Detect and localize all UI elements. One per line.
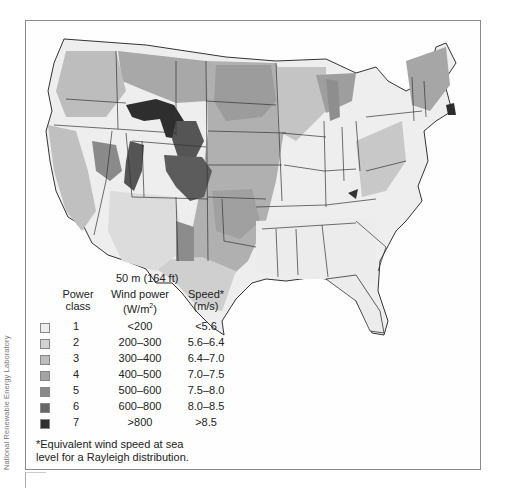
power-value: 500–600	[100, 384, 180, 396]
class-value: 5	[68, 384, 84, 396]
speed-value: <5.6	[176, 320, 236, 332]
swatch-class-3	[40, 355, 50, 365]
legend-title: 50 m (164 ft)	[116, 272, 178, 284]
header-wind-power: Wind power (W/m2)	[100, 288, 180, 315]
speed-value: 7.5–8.0	[176, 384, 236, 396]
legend-row: 3 300–400 6.4–7.0	[30, 352, 230, 368]
class-value: 6	[68, 400, 84, 412]
crop-mark	[25, 472, 46, 488]
legend-row: 2 200–300 5.6–6.4	[30, 336, 230, 352]
swatch-class-5	[40, 387, 50, 397]
power-value: 300–400	[100, 352, 180, 364]
legend-row: 1 <200 <5.6	[30, 320, 230, 336]
class-value: 2	[68, 336, 84, 348]
header-class-line1: Power	[58, 288, 98, 300]
header-speed: Speed* (m/s)	[176, 288, 236, 312]
swatch-class-6	[40, 403, 50, 413]
class-value: 7	[68, 416, 84, 428]
header-class-line2: class	[58, 300, 98, 312]
power-value: >800	[100, 416, 180, 428]
speed-value: 7.0–7.5	[176, 368, 236, 380]
header-power-close: )	[153, 303, 157, 315]
class-value: 4	[68, 368, 84, 380]
swatch-class-7	[40, 419, 50, 429]
class-value: 1	[68, 320, 84, 332]
legend-row: 5 500–600 7.5–8.0	[30, 384, 230, 400]
power-value: 200–300	[100, 336, 180, 348]
header-power-line1: Wind power	[100, 288, 180, 300]
footnote: *Equivalent wind speed at sea level for …	[36, 438, 206, 464]
speed-value: 8.0–8.5	[176, 400, 236, 412]
legend-row: 7 >800 >8.5	[30, 416, 230, 432]
speed-value: >8.5	[176, 416, 236, 428]
legend-row: 6 600–800 8.0–8.5	[30, 400, 230, 416]
legend-row: 4 400–500 7.0–7.5	[30, 368, 230, 384]
header-power-unit: (W/m	[123, 303, 149, 315]
power-value: <200	[100, 320, 180, 332]
swatch-class-1	[40, 323, 50, 333]
header-speed-line1: Speed*	[176, 288, 236, 300]
swatch-class-4	[40, 371, 50, 381]
speed-value: 6.4–7.0	[176, 352, 236, 364]
source-credit: National Renewable Energy Laboratory	[2, 335, 11, 470]
class-value: 3	[68, 352, 84, 364]
power-value: 400–500	[100, 368, 180, 380]
power-value: 600–800	[100, 400, 180, 412]
header-power-class: Power class	[58, 288, 98, 312]
swatch-class-2	[40, 339, 50, 349]
speed-value: 5.6–6.4	[176, 336, 236, 348]
header-speed-line2: (m/s)	[176, 300, 236, 312]
new-mexico-class4	[176, 221, 194, 261]
header-power-line2: (W/m2)	[100, 300, 180, 315]
